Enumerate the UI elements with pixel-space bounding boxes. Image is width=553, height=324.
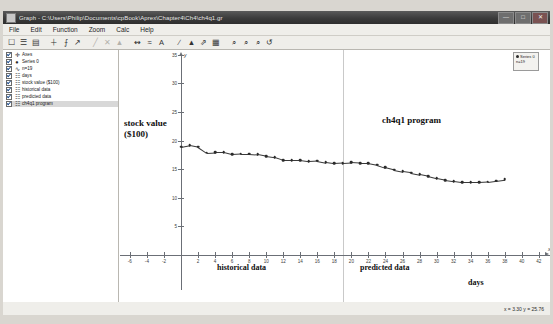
y-tick xyxy=(178,55,184,56)
data-point[interactable] xyxy=(435,177,438,180)
tree-item[interactable]: ✛Axes xyxy=(6,52,118,59)
data-point[interactable] xyxy=(384,166,387,169)
data-point[interactable] xyxy=(444,179,447,182)
tree-item-icon: ● xyxy=(14,59,20,65)
tree-item-icon: ∿ xyxy=(14,66,20,72)
table-icon[interactable]: ▦ xyxy=(210,37,221,48)
data-point[interactable] xyxy=(248,152,251,155)
close-button[interactable]: ✕ xyxy=(532,12,548,24)
data-point[interactable] xyxy=(342,162,345,165)
legend-box[interactable]: Series 0 n=19 xyxy=(513,52,539,71)
data-point[interactable] xyxy=(503,178,506,181)
data-point[interactable] xyxy=(256,153,259,156)
x-tick xyxy=(215,252,216,258)
menu-item-file[interactable]: File xyxy=(7,25,21,34)
menu-item-edit[interactable]: Edit xyxy=(28,25,43,34)
tree-item[interactable]: ☷predicted data xyxy=(6,94,118,101)
menu-item-function[interactable]: Function xyxy=(51,25,80,34)
data-point[interactable] xyxy=(214,151,217,154)
save-icon[interactable]: ▤ xyxy=(30,37,41,48)
tree-item-checkbox[interactable] xyxy=(6,87,12,93)
minimize-button[interactable]: — xyxy=(498,12,514,24)
open-icon[interactable]: ☰ xyxy=(18,37,29,48)
data-point[interactable] xyxy=(367,162,370,165)
data-point[interactable] xyxy=(376,163,379,166)
data-point[interactable] xyxy=(265,155,268,158)
x-tick xyxy=(198,252,199,258)
tangent-icon[interactable]: ∕ xyxy=(174,37,185,48)
x-tick xyxy=(334,252,335,258)
data-point[interactable] xyxy=(273,156,276,159)
tree-item[interactable]: ●Series 0 xyxy=(6,59,118,66)
y-tick xyxy=(178,169,184,170)
tree-item-icon: ☷ xyxy=(14,94,20,100)
data-point[interactable] xyxy=(231,153,234,156)
data-point[interactable] xyxy=(410,171,413,174)
data-point[interactable] xyxy=(427,175,430,178)
data-point[interactable] xyxy=(333,162,336,165)
axes-icon[interactable]: ↭ xyxy=(132,37,143,48)
data-point[interactable] xyxy=(197,146,200,149)
zoom-window-icon[interactable]: ⌕ xyxy=(252,37,263,48)
data-point[interactable] xyxy=(239,152,242,155)
x-tick xyxy=(420,252,421,258)
toolbar-separator xyxy=(168,37,173,48)
graph-plot-area[interactable]: x y -6-4-2246810121416182022242628303234… xyxy=(120,50,550,302)
trendline-icon[interactable]: ⇗ xyxy=(198,37,209,48)
tree-item[interactable]: ☷ch4q1 program xyxy=(6,101,118,108)
data-point[interactable] xyxy=(222,151,225,154)
data-point[interactable] xyxy=(486,180,489,183)
menu-item-calc[interactable]: Calc xyxy=(114,25,131,34)
data-point[interactable] xyxy=(299,159,302,162)
tree-item-checkbox[interactable] xyxy=(6,94,12,100)
x-tick-label: -6 xyxy=(128,259,132,264)
data-point[interactable] xyxy=(359,162,362,165)
tree-item-checkbox[interactable] xyxy=(6,73,12,79)
data-point[interactable] xyxy=(469,181,472,184)
tree-item-checkbox[interactable] xyxy=(6,59,12,65)
x-tick-label: 36 xyxy=(485,259,490,264)
tree-item-checkbox[interactable] xyxy=(6,80,12,86)
data-point[interactable] xyxy=(478,181,481,184)
data-point[interactable] xyxy=(393,168,396,171)
maximize-button[interactable]: □ xyxy=(515,12,531,24)
tree-item[interactable]: ☷days xyxy=(6,73,118,80)
data-point[interactable] xyxy=(461,181,464,184)
data-point[interactable] xyxy=(180,146,183,149)
text-label-icon[interactable]: A xyxy=(156,37,167,48)
shade-area-icon[interactable]: ▲ xyxy=(186,37,197,48)
tree-item-label: predicted data xyxy=(22,94,51,100)
tree-item[interactable]: ∿n=19 xyxy=(6,66,118,73)
tree-item-checkbox[interactable] xyxy=(6,101,12,107)
data-point[interactable] xyxy=(401,170,404,173)
menu-item-zoom[interactable]: Zoom xyxy=(87,25,108,34)
data-point[interactable] xyxy=(188,144,191,147)
data-point[interactable] xyxy=(325,161,328,164)
data-point[interactable] xyxy=(316,159,319,162)
tree-item-checkbox[interactable] xyxy=(6,52,12,58)
data-point[interactable] xyxy=(452,180,455,183)
data-point[interactable] xyxy=(350,161,353,164)
menu-item-help[interactable]: Help xyxy=(138,25,155,34)
new-icon[interactable]: ☐ xyxy=(6,37,17,48)
zoom-reset-icon[interactable]: ↺ xyxy=(264,37,275,48)
object-tree-panel[interactable]: ✛Axes●Series 0∿n=19☷days☷stock value ($1… xyxy=(3,50,119,302)
tree-item-checkbox[interactable] xyxy=(6,66,12,72)
add-function-icon[interactable]: ＋ xyxy=(48,37,59,48)
data-point[interactable] xyxy=(495,179,498,182)
data-point[interactable] xyxy=(282,159,285,162)
tree-item[interactable]: ☷stock value ($100) xyxy=(6,80,118,87)
data-point[interactable] xyxy=(205,151,208,154)
grid-icon[interactable]: ≈ xyxy=(144,37,155,48)
data-point[interactable] xyxy=(418,173,421,176)
data-point[interactable] xyxy=(308,160,311,163)
tree-item[interactable]: ☷historical data xyxy=(6,87,118,94)
add-point-series-icon[interactable]: ⨍ xyxy=(60,37,71,48)
add-relation-icon[interactable]: ↗ xyxy=(72,37,83,48)
x-tick xyxy=(437,252,438,258)
x-tick xyxy=(539,252,540,258)
zoom-out-icon[interactable]: ⌕ xyxy=(240,37,251,48)
data-point[interactable] xyxy=(290,159,293,162)
zoom-in-icon[interactable]: ⌕ xyxy=(228,37,239,48)
x-tick-label: 38 xyxy=(502,259,507,264)
